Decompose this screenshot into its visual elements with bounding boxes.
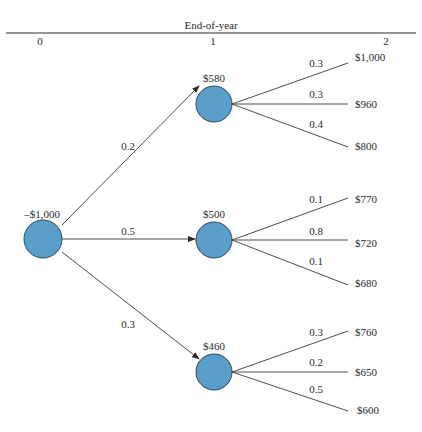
value-960: $960 [355, 98, 378, 110]
period-2-label: 2 [383, 35, 389, 47]
edge-460-to-600 [232, 372, 348, 411]
prob-500-720: 0.8 [309, 225, 323, 237]
prob-500-770: 0.1 [309, 193, 323, 205]
prob-500-680: 0.1 [309, 255, 323, 267]
value-650: $650 [355, 366, 378, 378]
edge-root-to-580 [62, 86, 199, 225]
node-460 [196, 354, 232, 390]
prob-580-960: 0.3 [309, 88, 323, 100]
prob-root-580: 0.2 [121, 140, 135, 152]
header-title: End-of-year [184, 19, 237, 31]
prob-580-1000: 0.3 [309, 57, 323, 69]
value-760: $760 [355, 326, 378, 338]
value-600: $600 [357, 404, 380, 416]
root-node [24, 220, 62, 258]
prob-460-650: 0.2 [309, 356, 323, 368]
node-500 [196, 222, 232, 258]
value-720: $720 [355, 237, 378, 249]
value-680: $680 [355, 277, 378, 289]
prob-root-460: 0.3 [121, 318, 135, 330]
period-0-label: 0 [37, 35, 43, 47]
probability-tree-diagram: End-of-year 0 1 2 0.2 0.5 0.3 0.3 0.3 0.… [0, 0, 422, 432]
edge-580-to-800 [232, 104, 348, 147]
node-460-label: $460 [203, 340, 226, 352]
period-1-label: 1 [210, 35, 216, 47]
prob-580-800: 0.4 [309, 118, 323, 130]
value-770: $770 [355, 193, 378, 205]
value-1000: $1,000 [355, 51, 386, 63]
prob-460-600: 0.5 [309, 383, 323, 395]
value-800: $800 [355, 140, 378, 152]
node-500-label: $500 [203, 208, 226, 220]
edge-580-to-1000 [232, 63, 348, 104]
node-580-label: $580 [203, 72, 226, 84]
edge-root-to-460 [62, 252, 199, 359]
prob-root-500: 0.5 [121, 225, 135, 237]
edge-500-to-770 [232, 198, 348, 240]
edge-460-to-760 [232, 331, 348, 372]
prob-460-760: 0.3 [309, 326, 323, 338]
root-node-label: –$1,000 [23, 208, 60, 220]
edge-500-to-680 [232, 240, 348, 285]
node-580 [196, 86, 232, 122]
